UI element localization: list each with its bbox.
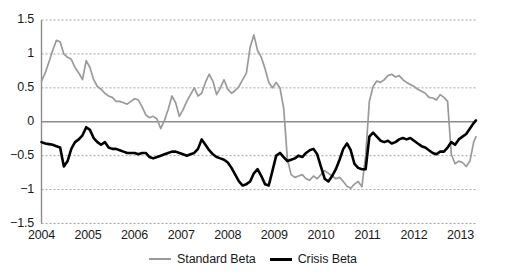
chart-figure: 1.510.50−0.5−1−1.5 200420052006200720082…: [0, 0, 506, 276]
x-tick-label: 2006: [112, 228, 158, 242]
x-tick-label: 2004: [19, 228, 65, 242]
y-tick-label: 1: [0, 46, 34, 60]
legend-label-crisis-beta: Crisis Beta: [298, 252, 357, 266]
legend-line-swatch-crisis-icon: [270, 258, 292, 261]
legend-item-crisis-beta: Crisis Beta: [270, 252, 357, 266]
x-tick-label: 2007: [158, 228, 204, 242]
chart-legend: Standard Beta Crisis Beta: [0, 252, 506, 266]
x-tick-label: 2005: [65, 228, 111, 242]
y-tick-label: 0.5: [0, 80, 34, 94]
legend-line-swatch-standard-icon: [149, 258, 171, 260]
y-tick-label: 1.5: [0, 12, 34, 26]
x-tick-label: 2013: [438, 228, 484, 242]
y-tick-label: −1: [0, 182, 34, 196]
legend-item-standard-beta: Standard Beta: [149, 252, 256, 266]
data-series: [42, 35, 477, 188]
y-tick-label: −0.5: [0, 148, 34, 162]
x-tick-label: 2008: [205, 228, 251, 242]
axis-lines: [42, 20, 477, 224]
x-tick-label: 2012: [391, 228, 437, 242]
x-tick-label: 2009: [251, 228, 297, 242]
x-tick-label: 2011: [344, 228, 390, 242]
series-line-crisis-beta: [42, 120, 477, 185]
series-line-standard-beta: [42, 35, 477, 188]
y-tick-label: 0: [0, 114, 34, 128]
x-tick-label: 2010: [298, 228, 344, 242]
legend-label-standard-beta: Standard Beta: [177, 252, 256, 266]
